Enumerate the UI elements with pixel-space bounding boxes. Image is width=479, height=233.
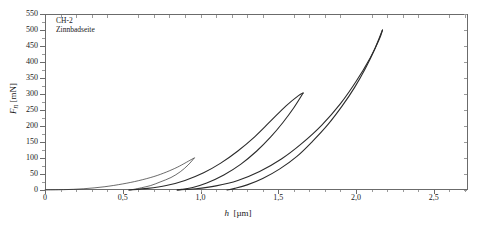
- x-tick-minor-top: [154, 15, 155, 18]
- x-tick-minor: [325, 190, 326, 192]
- y-tick-minor: [42, 150, 45, 151]
- x-tick-minor: [387, 190, 388, 192]
- x-tick-label: 2,5: [419, 194, 449, 202]
- x-tick-minor-top: [449, 15, 450, 18]
- x-axis-label: h [µm]: [168, 208, 308, 218]
- x-tick-minor: [154, 190, 155, 192]
- y-tick-label: 550: [8, 10, 38, 18]
- y-tick-mark: [40, 174, 45, 175]
- y-tick-mark: [40, 110, 45, 111]
- y-tick-mark-right: [464, 142, 467, 143]
- y-tick-mark: [40, 142, 45, 143]
- y-tick-mark: [40, 30, 45, 31]
- x-tick-minor: [138, 190, 139, 192]
- x-tick-minor: [216, 190, 217, 192]
- x-tick-mark: [45, 190, 46, 194]
- x-tick-mark: [278, 190, 279, 194]
- x-tick-minor-top: [294, 15, 295, 18]
- x-tick-label: 0: [30, 194, 60, 202]
- x-tick-label: 2,0: [341, 194, 371, 202]
- y-tick-mark-right: [464, 62, 467, 63]
- y-tick-mark: [40, 14, 45, 15]
- y-tick-mark: [40, 126, 45, 127]
- x-tick-minor-top: [76, 15, 77, 18]
- x-tick-label: 1,0: [186, 194, 216, 202]
- y-tick-mark-right: [464, 126, 467, 127]
- x-tick-minor: [232, 190, 233, 192]
- x-tick-minor: [92, 190, 93, 192]
- x-tick-minor-top: [185, 15, 186, 18]
- y-tick-mark: [40, 78, 45, 79]
- x-tick-minor-top: [372, 15, 373, 18]
- x-tick-mark: [434, 190, 435, 194]
- y-tick-minor: [42, 166, 45, 167]
- x-tick-minor: [185, 190, 186, 192]
- y-tick-minor: [42, 86, 45, 87]
- y-tick-label: 400: [8, 58, 38, 66]
- x-tick-minor: [247, 190, 248, 192]
- x-tick-minor-top: [232, 15, 233, 18]
- y-tick-label: 200: [8, 122, 38, 130]
- y-tick-label: 350: [8, 74, 38, 82]
- y-tick-mark-right: [464, 30, 467, 31]
- y-tick-mark-right: [464, 46, 467, 47]
- y-tick-mark-right: [464, 94, 467, 95]
- y-tick-minor: [42, 22, 45, 23]
- x-tick-minor-top: [403, 15, 404, 18]
- x-tick-minor: [76, 190, 77, 192]
- y-tick-label: 0: [8, 186, 38, 194]
- y-tick-minor: [42, 182, 45, 183]
- x-tick-label: 1,5: [263, 194, 293, 202]
- nanoindentation-chart: CH-2 Zinnbadseite Fn [mN] h [µm] 0501001…: [0, 0, 479, 233]
- y-tick-mark: [40, 158, 45, 159]
- x-tick-mark: [356, 190, 357, 194]
- annotation-line-2: Zinnbadseite: [56, 25, 95, 34]
- x-tick-minor: [340, 190, 341, 192]
- y-tick-minor: [42, 38, 45, 39]
- chart-annotation: CH-2 Zinnbadseite: [56, 16, 95, 34]
- y-tick-mark: [40, 46, 45, 47]
- y-tick-mark: [40, 94, 45, 95]
- x-tick-minor: [418, 190, 419, 192]
- x-tick-minor-top: [247, 15, 248, 18]
- y-tick-minor: [42, 102, 45, 103]
- y-tick-label: 100: [8, 154, 38, 162]
- x-tick-minor: [465, 190, 466, 192]
- y-tick-label: 450: [8, 42, 38, 50]
- x-tick-minor-top: [465, 15, 466, 18]
- y-tick-label: 300: [8, 90, 38, 98]
- x-axis-unit: [µm]: [233, 208, 251, 218]
- y-tick-minor: [42, 70, 45, 71]
- y-tick-label: 50: [8, 170, 38, 178]
- x-tick-minor-top: [263, 15, 264, 18]
- x-tick-minor-top: [325, 15, 326, 18]
- x-tick-minor-top: [138, 15, 139, 18]
- y-tick-mark: [40, 62, 45, 63]
- plot-frame: [45, 14, 468, 190]
- x-tick-minor: [403, 190, 404, 192]
- y-tick-minor: [42, 54, 45, 55]
- x-tick-minor: [61, 190, 62, 192]
- y-tick-mark-right: [464, 158, 467, 159]
- x-tick-minor: [372, 190, 373, 192]
- x-tick-minor: [169, 190, 170, 192]
- x-tick-minor: [263, 190, 264, 192]
- y-tick-mark-right: [464, 174, 467, 175]
- x-tick-minor-top: [169, 15, 170, 18]
- x-tick-minor-top: [387, 15, 388, 18]
- x-tick-minor: [449, 190, 450, 192]
- y-tick-mark-right: [464, 110, 467, 111]
- x-tick-minor-top: [216, 15, 217, 18]
- y-tick-minor: [42, 118, 45, 119]
- x-tick-mark: [123, 190, 124, 194]
- x-tick-minor: [294, 190, 295, 192]
- y-tick-label: 500: [8, 26, 38, 34]
- x-axis-symbol: h: [224, 208, 229, 218]
- y-tick-minor: [42, 134, 45, 135]
- y-tick-label: 150: [8, 138, 38, 146]
- x-tick-minor: [201, 190, 202, 192]
- x-tick-minor: [309, 190, 310, 192]
- x-tick-label: 0,5: [108, 194, 138, 202]
- y-tick-mark-right: [464, 78, 467, 79]
- y-tick-label: 250: [8, 106, 38, 114]
